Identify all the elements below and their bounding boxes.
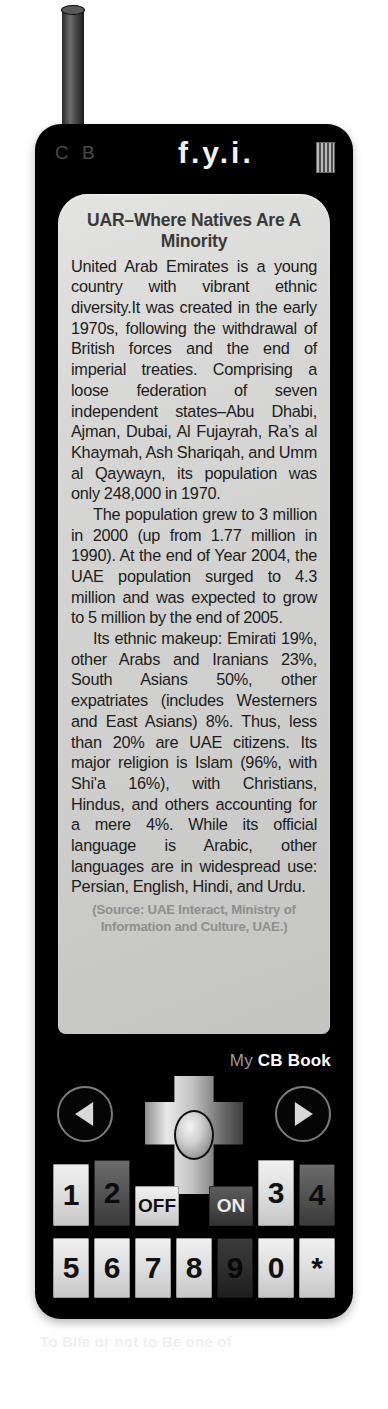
key-7[interactable]: 7 bbox=[135, 1238, 171, 1298]
next-page-button[interactable] bbox=[275, 1086, 331, 1142]
article-source: (Source: UAE Interact, Ministry of Infor… bbox=[71, 901, 317, 935]
handheld-device: C B f.y.i. UAR–Where Natives Are A Minor… bbox=[35, 124, 353, 1319]
key-8[interactable]: 8 bbox=[176, 1238, 212, 1298]
key-3[interactable]: 3 bbox=[258, 1160, 294, 1226]
triangle-right-icon bbox=[295, 1102, 313, 1126]
background-bleed-text: To BIIe or not to Be one of bbox=[40, 1330, 350, 1353]
key-2[interactable]: 2 bbox=[94, 1160, 130, 1226]
my-cb-book-label: My CB Book bbox=[230, 1051, 331, 1071]
my-cb-book-thin: My bbox=[230, 1051, 253, 1070]
article-paragraph-2: The population grew to 3 million in 2000… bbox=[71, 504, 317, 628]
speaker-grille-icon bbox=[316, 142, 335, 173]
key-0[interactable]: 0 bbox=[258, 1238, 294, 1298]
my-cb-book-bold: CB Book bbox=[258, 1051, 331, 1070]
fyi-logo: f.y.i. bbox=[178, 136, 254, 170]
article-paragraph-1: United Arab Emirates is a young country … bbox=[71, 256, 317, 504]
key-star[interactable]: * bbox=[299, 1238, 335, 1298]
article-paragraph-3: Its ethnic makeup: Emirati 19%, other Ar… bbox=[71, 628, 317, 897]
key-5[interactable]: 5 bbox=[53, 1238, 89, 1298]
key-6[interactable]: 6 bbox=[94, 1238, 130, 1298]
key-9[interactable]: 9 bbox=[217, 1238, 253, 1298]
key-1[interactable]: 1 bbox=[53, 1164, 89, 1226]
key-on[interactable]: ON bbox=[209, 1186, 253, 1226]
prev-page-button[interactable] bbox=[57, 1086, 113, 1142]
article-title: UAR–Where Natives Are A Minority bbox=[71, 210, 317, 253]
triangle-left-icon bbox=[75, 1102, 93, 1126]
lcd-screen: UAR–Where Natives Are A Minority United … bbox=[58, 194, 330, 1034]
keypad: 12OFFON34 567890* bbox=[35, 1164, 353, 1314]
key-4[interactable]: 4 bbox=[299, 1164, 335, 1226]
key-off[interactable]: OFF bbox=[135, 1186, 179, 1226]
cb-logo: C B bbox=[55, 142, 99, 164]
dpad-center-button[interactable] bbox=[174, 1110, 214, 1160]
antenna bbox=[62, 8, 84, 130]
device-brand-bar: C B f.y.i. bbox=[35, 134, 353, 178]
antenna-cap bbox=[61, 5, 85, 15]
